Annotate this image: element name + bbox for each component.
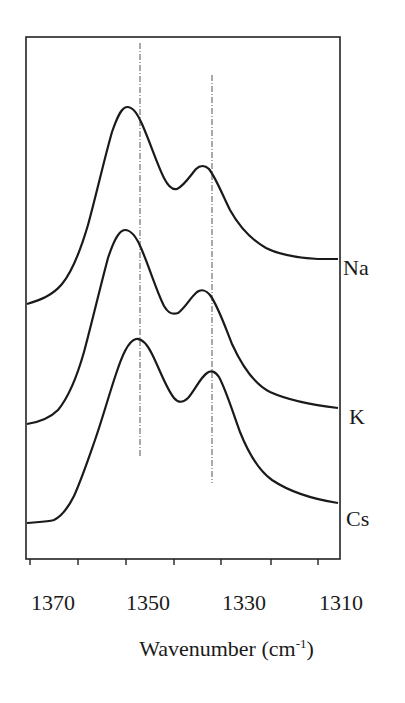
x-tick-label-1310: 1310 [306,590,376,616]
x-tick-label-1350: 1350 [113,590,183,616]
x-axis-title-exponent: -1 [296,636,307,651]
series-label-k: K [349,404,365,430]
x-axis-title: Wavenumber (cm-1) [0,636,405,662]
x-axis-ticks [30,559,318,565]
series-label-na: Na [343,255,369,281]
series-k-curve [27,230,338,424]
plot-frame [26,37,340,559]
series-label-cs: Cs [346,506,369,532]
series-na-curve [27,107,338,304]
series-cs-curve [27,339,338,523]
x-axis-title-close: ) [306,636,313,661]
x-tick-label-1330: 1330 [209,590,279,616]
x-axis-title-main: Wavenumber (cm [139,636,295,661]
x-tick-label-1370: 1370 [18,590,88,616]
